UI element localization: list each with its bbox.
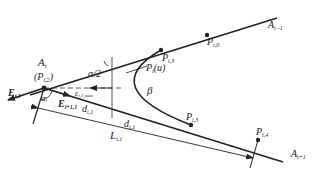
label-alpha-i: αi xyxy=(41,93,48,103)
label-a-im1: Ai−1 xyxy=(267,19,283,31)
label-d-lower: di,1 xyxy=(124,118,135,130)
label-epsilon: εi,1,max xyxy=(75,89,94,99)
label-p-i2: (Pi,2) xyxy=(34,71,54,83)
label-p-i0: Pi,0 xyxy=(206,36,219,48)
label-e-i1: Ei,1 xyxy=(7,87,21,99)
label-p-i3-top: Pi,3 xyxy=(161,52,174,64)
alpha-half-arc xyxy=(104,61,108,66)
label-p-i3-bottom: Pi,3 xyxy=(185,111,198,123)
l-dimension-arrow xyxy=(38,108,253,158)
label-beta: β xyxy=(146,84,153,96)
label-e-ip1: Ei+1,1 xyxy=(57,98,77,110)
point-p-i4 xyxy=(256,138,260,142)
label-alpha-half: α/2 xyxy=(88,68,101,79)
point-a-i xyxy=(42,86,47,91)
point-p-i3-bottom xyxy=(189,123,193,127)
corner-transition-diagram: Ai (Pi,2) Ei,1 Ei+1,1 εi,1,max α/2 αi di… xyxy=(0,0,313,173)
label-l: Li,1 xyxy=(109,129,122,142)
label-d-upper: di,1 xyxy=(82,103,93,115)
upper-path-line xyxy=(30,18,277,95)
e-ip1-arrow xyxy=(44,88,70,96)
lower-path-line xyxy=(44,88,283,162)
label-a-i: Ai xyxy=(37,56,47,70)
label-a-ip1: Ai+1 xyxy=(290,148,306,160)
label-p-u: Pi(u) xyxy=(145,62,166,74)
label-p-i4: Pi,4 xyxy=(255,126,268,138)
